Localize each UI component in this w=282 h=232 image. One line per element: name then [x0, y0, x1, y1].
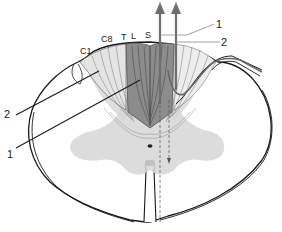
- callout-left-1: 1: [7, 148, 13, 160]
- label-s: S: [145, 30, 151, 40]
- label-c1: C1: [80, 46, 92, 56]
- label-t: T: [121, 32, 127, 42]
- callout-right-2: 2: [221, 36, 227, 48]
- label-c8: C8: [101, 34, 113, 44]
- label-l: L: [131, 31, 136, 41]
- callout-right-1: 1: [216, 18, 222, 30]
- callout-left-2: 2: [4, 108, 10, 120]
- leader-right-1: [160, 24, 214, 35]
- spinal-cord-diagram: C1 C8 T L S 1 2 2 1: [0, 0, 282, 232]
- central-canal: [148, 144, 153, 148]
